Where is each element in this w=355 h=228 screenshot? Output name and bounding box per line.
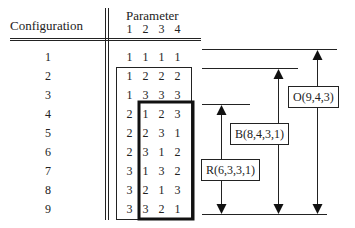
annotation-b: B(8,4,3,1) bbox=[230, 123, 289, 145]
annotation-r: R(6,3,3,1) bbox=[201, 159, 260, 181]
annotation-o: O(9,4,3) bbox=[288, 86, 339, 108]
arrow-down-r bbox=[217, 204, 227, 214]
arrow-up-b bbox=[274, 69, 284, 79]
diagram-lines bbox=[0, 0, 355, 228]
subset-box-b bbox=[117, 68, 192, 220]
arrow-down-b bbox=[274, 204, 284, 214]
arrow-up-r bbox=[217, 105, 227, 115]
arrow-down-o bbox=[313, 204, 323, 214]
arrow-up-o bbox=[313, 50, 323, 60]
subset-box-r bbox=[139, 102, 193, 219]
